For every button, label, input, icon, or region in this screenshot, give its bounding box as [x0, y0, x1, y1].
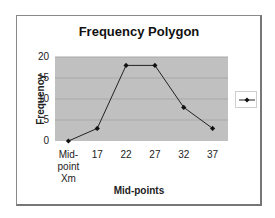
x-tick-label: 37: [198, 149, 228, 161]
x-tick-label: 17: [82, 149, 112, 161]
y-tick-label: 5: [29, 114, 49, 125]
legend-series-icon: [236, 92, 258, 109]
y-tick-label: 10: [29, 93, 49, 104]
x-tick-label: Mid-pointXm: [53, 149, 83, 185]
y-tick-label: 15: [29, 72, 49, 83]
x-tick-label: 32: [169, 149, 199, 161]
plot-area: [0, 0, 275, 218]
x-tick-label: 22: [111, 149, 141, 161]
legend: [235, 91, 257, 108]
y-tick-label: 20: [29, 51, 49, 62]
x-tick-label: 27: [140, 149, 170, 161]
y-tick-label: 0: [29, 135, 49, 146]
